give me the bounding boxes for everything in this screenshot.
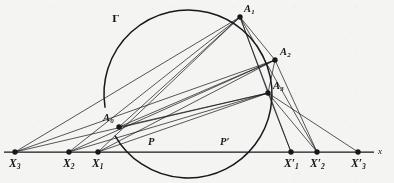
label-X1p-base: X xyxy=(284,157,292,169)
label-A0-subscript: 0 xyxy=(110,117,113,124)
label-A3: A3 xyxy=(273,81,284,93)
label-X2: X2 xyxy=(63,158,75,171)
label-A2: A2 xyxy=(280,47,291,59)
label-X1p-subscript: 1 xyxy=(295,162,299,171)
label-x-axis: x xyxy=(378,147,382,156)
label-X3: X3 xyxy=(9,158,21,171)
line-X2-to-A1 xyxy=(69,17,240,152)
label-A1-base: A xyxy=(244,3,251,14)
label-Pp: P′ xyxy=(220,137,229,148)
label-X3p: X′3 xyxy=(351,158,366,171)
label-X2-base: X xyxy=(63,157,71,169)
label-X2p-base: X xyxy=(310,157,318,169)
point-marker-X1p xyxy=(288,149,293,154)
label-A1: A1 xyxy=(244,4,255,16)
line-A0-to-A3 xyxy=(119,93,268,127)
line-X2-to-A2 xyxy=(69,60,275,152)
point-marker-X2p xyxy=(314,149,319,154)
label-X1-subscript: 1 xyxy=(100,162,104,171)
point-marker-A1 xyxy=(237,14,242,19)
geometry-figure: A0A1A2A3X3X2X1X′1X′2X′3PP′Γx xyxy=(0,0,394,183)
label-X2p: X′2 xyxy=(310,158,325,171)
label-Pp-prime: ′ xyxy=(226,136,229,147)
label-A0-base: A xyxy=(103,112,110,123)
label-P-base: P xyxy=(148,136,154,147)
point-marker-A3 xyxy=(265,90,270,95)
label-X2-subscript: 2 xyxy=(71,162,75,171)
line-X1-to-A2 xyxy=(98,60,275,152)
point-marker-A0 xyxy=(116,124,121,129)
point-marker-A2 xyxy=(272,57,277,62)
construction-lines-group xyxy=(15,17,358,152)
label-X1-base: X xyxy=(92,157,100,169)
label-X1p: X′1 xyxy=(284,158,299,171)
label-X1: X1 xyxy=(92,158,104,171)
label-P: P xyxy=(148,137,154,148)
label-A3-base: A xyxy=(273,80,280,91)
label-X3-subscript: 3 xyxy=(17,162,21,171)
line-A1-to-A2 xyxy=(240,17,275,60)
label-A2-base: A xyxy=(280,46,287,57)
point-marker-X3p xyxy=(355,149,360,154)
label-A1-subscript: 1 xyxy=(251,8,254,15)
label-X3p-base: X xyxy=(351,157,359,169)
figure-canvas xyxy=(0,0,394,183)
label-X2p-subscript: 2 xyxy=(321,162,325,171)
line-A3-to-X2p xyxy=(268,93,317,152)
point-marker-X2 xyxy=(66,149,71,154)
label-A2-subscript: 2 xyxy=(287,51,290,58)
point-marker-X1 xyxy=(95,149,100,154)
point-marker-X3 xyxy=(12,149,17,154)
label-A0: A0 xyxy=(103,113,114,125)
line-A0-to-A2 xyxy=(119,60,275,127)
label-A3-subscript: 3 xyxy=(280,85,283,92)
line-A2-to-X2p xyxy=(275,60,317,152)
label-X3-base: X xyxy=(9,157,17,169)
label-gamma: Γ xyxy=(112,14,119,24)
label-X3p-subscript: 3 xyxy=(362,162,366,171)
line-A0-to-A1 xyxy=(119,17,240,127)
